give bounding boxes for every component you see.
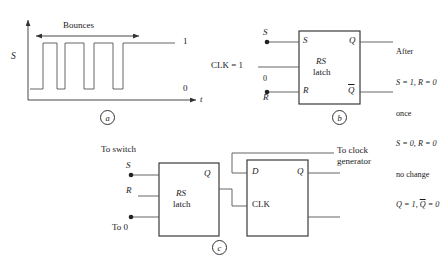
panel-c-input-r-label: R — [126, 186, 132, 195]
panel-b-pin-r: R — [303, 86, 309, 95]
bounce-waveform — [30, 43, 175, 89]
panel-b-input-r-label: R — [263, 93, 269, 102]
panel-c-input-s-label: S — [126, 161, 131, 170]
panel-c-terminals — [129, 173, 134, 220]
clk-equals-one-label: CLK = 1 — [211, 61, 243, 70]
level-high-label: 1 — [183, 37, 188, 46]
terminal-dot-s — [265, 40, 270, 45]
clk-zero-label: 0 — [263, 75, 267, 83]
note-line-2: once — [396, 109, 439, 119]
panel-c-latch-title-line2: latch — [173, 200, 191, 209]
note-line-3: S = 0, R = 0 — [396, 139, 439, 149]
terminal-dot-zero — [129, 215, 134, 220]
panel-b-pin-s: S — [303, 36, 308, 45]
level-low-label: 0 — [183, 84, 188, 93]
note-final-prefix: Q = 1, — [396, 200, 420, 209]
panel-c-latch-title-line1: RS — [176, 189, 186, 198]
diagram-canvas — [0, 0, 448, 265]
panel-b-box-title-line2: latch — [313, 68, 331, 77]
panel-b-input-s-label: S — [263, 28, 268, 37]
panel-c-ff-pin-d: D — [252, 167, 259, 176]
time-axis-label: t — [200, 95, 203, 104]
panel-tag-a: a — [100, 110, 115, 125]
note-line-final: Q = 1, Q = 0 — [396, 200, 439, 210]
panel-b-pin-qbar: Q — [348, 86, 355, 95]
to-switch-label: To switch — [101, 145, 136, 154]
panel-a-axes — [28, 20, 196, 100]
panel-c-ff-pin-q: Q — [297, 167, 304, 176]
bounces-label: Bounces — [63, 21, 94, 30]
note-line-1: S = 1, R = 0 — [396, 78, 439, 88]
note-line-0: After — [396, 47, 439, 57]
panel-b-notes: After S = 1, R = 0 once S = 0, R = 0 no … — [396, 27, 439, 231]
to-zero-label: To 0 — [112, 223, 128, 232]
panel-b-pin-q: Q — [349, 36, 356, 45]
panel-c-ff-pin-clk: CLK — [252, 200, 270, 209]
panel-b-box-title-line1: RS — [316, 57, 326, 66]
panel-tag-c: c — [212, 240, 227, 255]
panel-a-signal-label: S — [11, 52, 16, 62]
figure-root: S Bounces 1 0 t a S R CLK = 1 0 S R Q Q … — [0, 0, 448, 265]
panel-tag-b: b — [332, 110, 347, 125]
note-final-suffix: = 0 — [426, 200, 440, 209]
to-clock-generator-line1: To clock — [337, 146, 368, 155]
panel-c-latch-pin-q: Q — [204, 169, 211, 178]
to-clock-generator-line2: generator — [337, 157, 371, 166]
note-line-4: no change — [396, 170, 439, 180]
terminal-dot-switch — [129, 173, 134, 178]
